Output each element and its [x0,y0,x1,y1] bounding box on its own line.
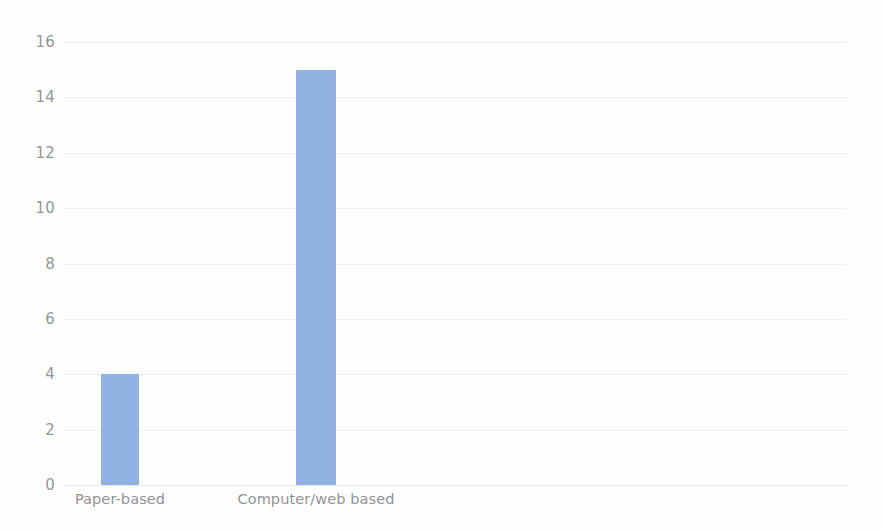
y-tick-label: 16 [11,35,55,50]
gridline [63,97,847,98]
gridline [63,264,847,265]
y-axis: 16 14 12 10 8 6 4 2 0 [0,42,55,485]
x-tick-label: Paper-based [75,492,165,508]
y-tick-label: 10 [11,201,55,216]
y-tick-label: 14 [11,90,55,105]
gridline [63,208,847,209]
y-tick-label: 2 [11,423,55,438]
gridline [63,153,847,154]
gridline [63,319,847,320]
bar-chart: 16 14 12 10 8 6 4 2 0 Paper-based Comput… [0,0,885,530]
gridline [63,42,847,43]
y-tick-label: 12 [11,146,55,161]
x-tick-label: Computer/web based [237,492,394,508]
y-tick-label: 8 [11,257,55,272]
gridline [63,430,847,431]
y-tick-label: 0 [11,478,55,493]
bar [101,374,139,485]
plot-area [63,42,847,485]
gridline [63,485,847,486]
gridline [63,374,847,375]
y-tick-label: 6 [11,312,55,327]
bar [296,70,336,485]
y-tick-label: 4 [11,367,55,382]
